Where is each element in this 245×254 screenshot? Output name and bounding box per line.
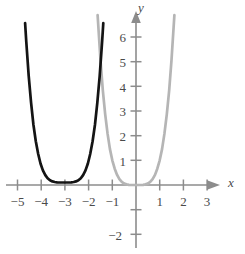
x-tick-label--3: −3 [55, 195, 75, 208]
graph-figure: y x −5 −4 −3 −2 −1 1 2 3 1 2 3 4 5 6 −2 [0, 0, 245, 254]
y-axis-label: y [138, 1, 144, 14]
black-quartic-curve [25, 23, 103, 183]
y-tick-label-2: 2 [110, 130, 126, 143]
x-tick-label-1: 1 [150, 195, 170, 208]
x-tick-label--2: −2 [79, 195, 99, 208]
y-tick-label-1: 1 [110, 155, 126, 168]
x-tick-label--4: −4 [31, 195, 51, 208]
y-tick-label-5: 5 [110, 56, 126, 69]
x-tick-label--1: −1 [102, 195, 122, 208]
y-tick-label-3: 3 [110, 105, 126, 118]
y-tick-label--2: −2 [106, 229, 122, 242]
x-axis-arrowhead [207, 180, 220, 190]
x-tick-label--5: −5 [8, 195, 28, 208]
y-tick-label-6: 6 [110, 31, 126, 44]
y-tick-label-4: 4 [110, 81, 126, 94]
x-tick-label-3: 3 [197, 195, 217, 208]
x-axis-label: x [228, 176, 234, 189]
x-tick-label-2: 2 [173, 195, 193, 208]
